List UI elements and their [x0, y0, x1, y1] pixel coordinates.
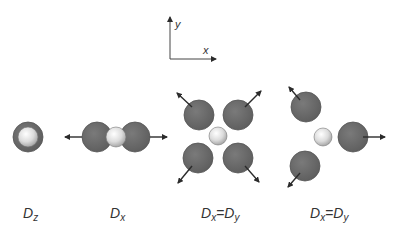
diagram-canvas: y x: [0, 0, 398, 235]
large-atom-bottom-left: [183, 143, 213, 173]
displacement-arrow-top-left: [177, 93, 192, 107]
displacement-arrow-top-right: [245, 91, 261, 107]
displacement-arrow-bottom-left: [178, 166, 192, 183]
caption-main: D: [201, 205, 211, 221]
panel-dxdy-three: [288, 87, 385, 187]
caption-main-2: D: [224, 205, 234, 221]
panel-dz: [13, 122, 43, 152]
x-axis-label: x: [202, 44, 209, 56]
caption-main: D: [110, 205, 120, 221]
panel-dx: [65, 122, 167, 152]
caption-dxdy-three: Dx=Dy: [310, 205, 348, 223]
large-atom-bottom: [290, 151, 320, 181]
caption-main: D: [23, 205, 33, 221]
large-atom-bottom-right: [223, 143, 253, 173]
caption-dx: Dx: [110, 205, 125, 223]
caption-main: D: [310, 205, 320, 221]
large-atom-top-right: [223, 100, 253, 130]
displacement-arrow-bottom-right: [245, 166, 259, 182]
caption-dz: Dz: [23, 205, 38, 223]
caption-sub: x: [120, 212, 125, 223]
y-axis-label: y: [174, 18, 182, 30]
caption-dxdy-four: Dx=Dy: [201, 205, 239, 223]
small-atom: [106, 127, 126, 147]
large-atom-top: [291, 92, 321, 122]
caption-main-2: D: [333, 205, 343, 221]
panel-dxdy-four: [177, 91, 261, 183]
caption-sub-2: y: [234, 212, 239, 223]
small-atom: [209, 127, 227, 145]
small-atom: [314, 128, 332, 146]
caption-sub-2: y: [343, 212, 348, 223]
small-atom: [18, 127, 38, 147]
caption-sub: z: [33, 212, 38, 223]
coordinate-axes: y x: [170, 17, 216, 59]
